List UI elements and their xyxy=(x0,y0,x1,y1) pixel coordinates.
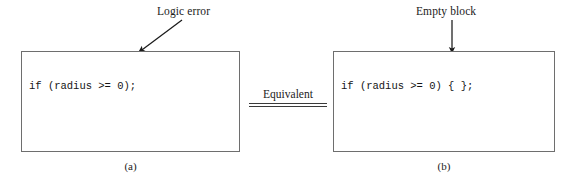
figure-canvas: Logic error Empty block if (radius >= 0)… xyxy=(0,0,576,183)
equivalent-connector: Equivalent xyxy=(249,88,327,107)
code-line: if (radius >= 0); xyxy=(29,81,232,93)
empty-block-annotation-label: Empty block xyxy=(416,5,476,18)
logic-error-arrow xyxy=(139,20,183,53)
code-line-blank xyxy=(29,151,232,152)
caption-b: (b) xyxy=(333,160,555,173)
equivalent-double-rule xyxy=(249,103,327,107)
code-line-blank xyxy=(341,116,547,128)
code-text: if (radius >= 0) { }; xyxy=(341,80,473,92)
code-box-a: if (radius >= 0); { area = radius * radi… xyxy=(21,51,240,152)
equivalent-label: Equivalent xyxy=(249,88,327,101)
code-line-blank xyxy=(29,116,232,128)
code-listing-a: if (radius >= 0); { area = radius * radi… xyxy=(29,58,232,152)
caption-a: (a) xyxy=(21,160,240,173)
equivalent-rule-bottom xyxy=(249,106,327,107)
code-line-blank xyxy=(341,151,547,152)
code-box-b: if (radius >= 0) { }; { area = radius * … xyxy=(333,51,555,152)
code-text: if (radius >= 0); xyxy=(29,80,136,92)
equivalent-rule-top xyxy=(249,103,327,104)
code-listing-b: if (radius >= 0) { }; { area = radius * … xyxy=(341,58,547,152)
logic-error-annotation-label: Logic error xyxy=(157,5,210,18)
code-line: if (radius >= 0) { }; xyxy=(341,81,547,93)
